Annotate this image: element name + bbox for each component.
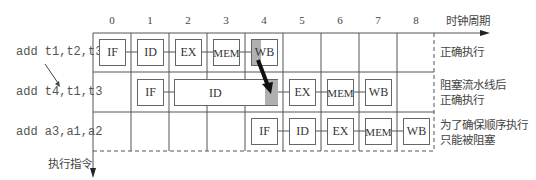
row-note: 为了确保顺序执行 只能被阻塞 (440, 118, 528, 148)
row-note: 阻塞流水线后 正确执行 (440, 78, 506, 108)
row-note: 正确执行 (440, 45, 484, 60)
